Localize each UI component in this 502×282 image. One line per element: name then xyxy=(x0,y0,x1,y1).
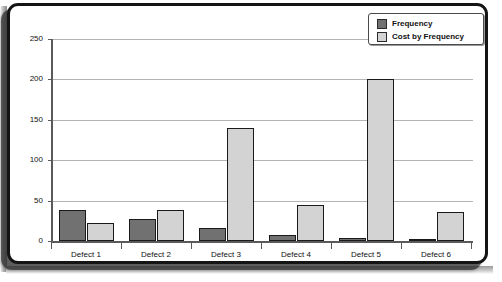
x-axis-tick-mark xyxy=(121,243,122,249)
gridline xyxy=(53,160,473,161)
bar-frequency-defect-6[interactable] xyxy=(409,239,436,241)
x-axis-category-label: Defect 6 xyxy=(401,250,471,259)
bar-cost-by-frequency-defect-1[interactable] xyxy=(87,223,114,241)
page-shadow-bottom xyxy=(6,266,493,274)
x-axis-tick-mark xyxy=(191,243,192,249)
gridline xyxy=(53,120,473,121)
legend-label-frequency: Frequency xyxy=(392,19,432,28)
gridline xyxy=(53,201,473,202)
legend-item-cost-by-frequency[interactable]: Cost by Frequency xyxy=(377,30,483,43)
x-axis-category-label: Defect 3 xyxy=(191,250,261,259)
bar-frequency-defect-3[interactable] xyxy=(199,228,226,241)
x-axis-tick-mark xyxy=(471,243,472,249)
x-axis-tick-mark xyxy=(401,243,402,249)
y-axis-tick-label: 150 xyxy=(15,116,43,124)
gridline xyxy=(53,79,473,80)
y-axis-tick-label: 0 xyxy=(15,237,43,245)
legend-item-frequency[interactable]: Frequency xyxy=(377,17,483,30)
y-axis-tick-label: 250 xyxy=(15,35,43,43)
y-axis-tick-mark xyxy=(48,39,53,40)
bar-cost-by-frequency-defect-5[interactable] xyxy=(367,79,394,241)
x-axis-category-label: Defect 4 xyxy=(261,250,331,259)
legend-swatch-frequency-icon xyxy=(377,19,387,29)
y-axis-tick-mark xyxy=(48,120,53,121)
y-axis-tick-label: 100 xyxy=(15,156,43,164)
bar-frequency-defect-1[interactable] xyxy=(59,210,86,241)
bar-cost-by-frequency-defect-4[interactable] xyxy=(297,205,324,241)
x-axis-category-label: Defect 2 xyxy=(121,250,191,259)
bar-frequency-defect-5[interactable] xyxy=(339,238,366,241)
legend-label-cost-by-frequency: Cost by Frequency xyxy=(392,32,464,41)
x-axis-category-label: Defect 5 xyxy=(331,250,401,259)
y-axis-tick-mark xyxy=(48,79,53,80)
x-axis-tick-mark xyxy=(331,243,332,249)
y-axis-tick-label: 200 xyxy=(15,75,43,83)
bar-frequency-defect-2[interactable] xyxy=(129,219,156,241)
legend-swatch-cost-by-frequency-icon xyxy=(377,32,387,42)
x-axis-tick-mark xyxy=(51,243,52,249)
y-axis-tick-label: 50 xyxy=(15,197,43,205)
page-shadow-left xyxy=(0,6,7,272)
y-axis-tick-mark xyxy=(48,160,53,161)
y-axis-tick-mark xyxy=(48,201,53,202)
x-axis-category-label: Defect 1 xyxy=(51,250,121,259)
y-axis-tick-mark xyxy=(48,241,53,242)
bar-cost-by-frequency-defect-6[interactable] xyxy=(437,212,464,241)
bar-cost-by-frequency-defect-3[interactable] xyxy=(227,128,254,241)
bar-frequency-defect-4[interactable] xyxy=(269,235,296,241)
x-axis-tick-mark xyxy=(261,243,262,249)
chart-legend: Frequency Cost by Frequency xyxy=(368,13,484,45)
bar-cost-by-frequency-defect-2[interactable] xyxy=(157,210,184,242)
chart-card: Frequency Cost by Frequency 050100150200… xyxy=(7,3,488,264)
plot-area xyxy=(51,39,473,243)
